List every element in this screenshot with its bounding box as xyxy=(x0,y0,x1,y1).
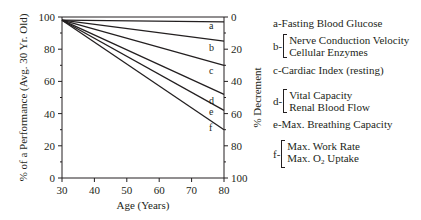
y-tick-label: 80 xyxy=(44,43,56,55)
legend-text-f1: Max. Work Rate xyxy=(287,140,360,152)
legend-text-d2: Renal Blood Flow xyxy=(289,101,370,113)
x-tick-label: 30 xyxy=(57,184,69,196)
x-tick-label: 50 xyxy=(121,184,133,196)
y-left-ticks xyxy=(58,17,62,178)
y2-tick-label: 60 xyxy=(231,108,243,120)
x-tick-label: 70 xyxy=(186,184,198,196)
y-tick-label: 60 xyxy=(44,75,56,87)
x-tick-label: 80 xyxy=(219,184,231,196)
line-a xyxy=(62,20,224,22)
x-tick-label: 40 xyxy=(89,184,101,196)
bracket-icon xyxy=(283,89,287,113)
y-tick-label: 20 xyxy=(44,140,56,152)
y-tick-label: 100 xyxy=(39,11,56,23)
y-tick-label: 40 xyxy=(44,108,56,120)
legend-text-e: Max. Breathing Capacity xyxy=(282,118,393,130)
line-label-a: a xyxy=(209,20,214,31)
y2-tick-label: 0 xyxy=(231,11,237,23)
y-axis-title: % of a Performance (Avg. 30 Yr. Old) xyxy=(17,13,30,181)
legend-text-d1: Vital Capacity xyxy=(289,89,370,101)
y-tick-label: 0 xyxy=(50,172,56,184)
legend-item-b: b- Nerve Conduction Velocity Cellular En… xyxy=(273,34,409,58)
legend-key-e: e- xyxy=(273,118,282,130)
y2-axis-title: % Decrement xyxy=(251,67,263,127)
y2-tick-label: 40 xyxy=(231,75,243,87)
legend-key-f: f- xyxy=(273,148,280,160)
y-right-ticks xyxy=(224,17,228,178)
line-label-d: d xyxy=(209,95,214,106)
line-c xyxy=(62,20,224,65)
legend-text-b2: Cellular Enzymes xyxy=(289,46,409,58)
legend-key-b: b- xyxy=(273,40,282,52)
y2-tick-label: 80 xyxy=(231,140,243,152)
x-ticks xyxy=(62,178,224,182)
legend-item-f: f- Max. Work Rate Max. O2 Uptake xyxy=(273,140,360,168)
series-lines xyxy=(62,20,224,130)
line-label-e: e xyxy=(209,106,214,117)
x-tick-label: 60 xyxy=(154,184,166,196)
legend-text-a: Fasting Blood Glucose xyxy=(282,17,383,29)
y2-tick-label: 100 xyxy=(231,172,248,184)
line-label-f: f xyxy=(209,122,213,133)
legend-key-c: c- xyxy=(273,64,282,76)
line-label-b: b xyxy=(209,42,214,53)
legend-key-a: a- xyxy=(273,17,282,29)
legend-item-d: d- Vital Capacity Renal Blood Flow xyxy=(273,89,370,113)
legend-key-d: d- xyxy=(273,95,282,107)
legend-text-c: Cardiac Index (resting) xyxy=(282,64,384,76)
y2-tick-label: 20 xyxy=(231,43,243,55)
legend-item-a: a-Fasting Blood Glucose xyxy=(273,17,382,29)
bracket-icon xyxy=(281,140,285,168)
bracket-icon xyxy=(283,34,287,58)
line-e xyxy=(62,20,224,110)
legend-text-f2: Max. O2 Uptake xyxy=(287,152,360,168)
line-label-c: c xyxy=(209,65,214,76)
legend-item-c: c-Cardiac Index (resting) xyxy=(273,64,384,76)
legend-item-e: e-Max. Breathing Capacity xyxy=(273,118,392,130)
x-axis-title: Age (Years) xyxy=(117,199,170,212)
legend-text-b1: Nerve Conduction Velocity xyxy=(289,34,409,46)
line-f xyxy=(62,20,224,130)
